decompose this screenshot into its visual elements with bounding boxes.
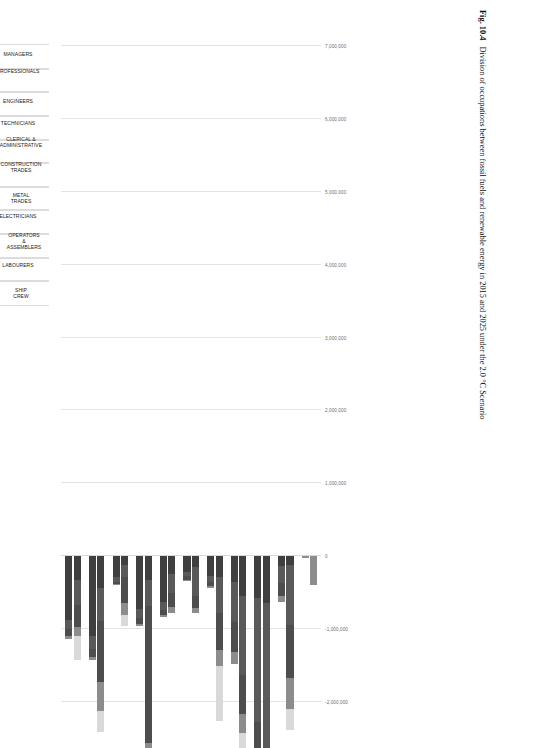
- bar-segment-offshore-wind: [207, 586, 214, 587]
- category-label: PROFESSIONALS: [0, 68, 39, 74]
- bar-segment-pv: [215, 577, 222, 613]
- category-name: CONSTRUCTION TRADES: [15, 163, 27, 187]
- bar-segment-fossil-fuel: [230, 556, 237, 582]
- bar-group: [273, 46, 297, 702]
- bar-segment-onshore-wind: [168, 593, 175, 608]
- figure-caption: Fig. 10.4Division of occupations between…: [472, 0, 492, 710]
- year-label-2025: 2025: [0, 225, 11, 231]
- value-tick-label: 6,000,000: [325, 117, 346, 122]
- value-tick-label: 4,000,000: [325, 263, 346, 268]
- bar-segment-offshore-wind: [88, 657, 95, 660]
- bar-segment-pv: [65, 620, 72, 629]
- year-label-2025: 2025: [0, 178, 11, 184]
- year-label-2025: 2025: [0, 60, 11, 66]
- bar-segment-fossil-fuel: [191, 556, 198, 567]
- value-tick-label: 1,000,000: [325, 481, 346, 486]
- plot-area: [61, 46, 321, 702]
- bar-segment-fossil-fuel: [73, 556, 80, 580]
- bar-segment-pv: [239, 596, 246, 675]
- value-tick-label: 3,000,000: [325, 336, 346, 341]
- bar-segment-fossil-fuel: [144, 556, 151, 580]
- bar-group: [61, 46, 85, 702]
- category-tick-ship-crew: 20152025SHIP CREW: [0, 280, 49, 306]
- bar-segment-pv: [97, 588, 104, 622]
- bar-segment-onshore-wind: [215, 613, 222, 649]
- bar-segment-change-fossil: [121, 615, 128, 627]
- bar-segment-pv: [254, 599, 261, 723]
- category-label: CONSTRUCTION TRADES: [0, 160, 41, 172]
- bar-segment-offshore-wind: [121, 603, 128, 615]
- bar-segment-offshore-wind: [136, 624, 143, 626]
- bar-segment-offshore-wind: [215, 650, 222, 666]
- bar-segment-fossil-fuel: [262, 556, 269, 603]
- caption-text: Division of occupations between fossil f…: [478, 40, 487, 419]
- bar-group: [84, 46, 108, 702]
- bar-segment-offshore-wind: [73, 627, 80, 636]
- category-tick-engineers: 20152025ENGINEERS: [0, 91, 49, 117]
- bar-segment-offshore-wind: [65, 636, 72, 639]
- bar-segment-offshore-wind: [168, 607, 175, 613]
- bar-segment-fossil-fuel: [97, 556, 104, 587]
- bar-segment-fossil-fuel: [65, 556, 72, 620]
- rotated-figure-container: Fossil fuel jobsPV jobsOnshore wind jobs…: [53, 24, 483, 724]
- category-label: MANAGERS: [3, 51, 32, 57]
- value-tick-label: 2,000,000: [325, 408, 346, 413]
- bar-segment-offshore-wind: [277, 596, 284, 602]
- bar-segment-fossil-fuel: [239, 556, 246, 595]
- category-label: METAL TRADES: [9, 193, 33, 205]
- bar-segment-onshore-wind: [121, 577, 128, 603]
- year-label-2025: 2025: [0, 272, 11, 278]
- bar-segment-fossil-fuel: [254, 556, 261, 598]
- bar-segment-fossil-fuel: [88, 556, 95, 636]
- category-name: SHIP CREW: [15, 281, 27, 305]
- bar-segment-onshore-wind: [286, 625, 293, 677]
- category-name: PROFESSIONALS: [15, 69, 21, 93]
- category-tick-labourers: 20152025LABOURERS: [0, 257, 49, 283]
- bar-segment-onshore-wind: [88, 649, 95, 657]
- category-name: MANAGERS: [15, 45, 21, 69]
- bar-segment-pv: [159, 602, 166, 610]
- bar-segment-pv: [286, 565, 293, 626]
- bar-group: [155, 46, 179, 702]
- category-tick-managers: 20152025MANAGERS: [0, 44, 49, 70]
- category-name: ENGINEERS: [15, 92, 21, 116]
- bar-group: [226, 46, 250, 702]
- value-tick-label: -1,000,000: [325, 627, 348, 632]
- bar-segment-change-fossil: [97, 711, 104, 731]
- bar-segment-fossil-fuel: [286, 556, 293, 565]
- bar-segment-change-fossil: [286, 709, 293, 731]
- bar-group: [108, 46, 132, 702]
- bar-group: [179, 46, 203, 702]
- bar-segment-fossil-fuel: [136, 556, 143, 608]
- category-label: LABOURERS: [2, 263, 33, 269]
- bar-segment-offshore-wind: [301, 556, 308, 558]
- figure-page: Fossil fuel jobsPV jobsOnshore wind jobs…: [0, 0, 535, 748]
- bar-segment-offshore-wind: [159, 615, 166, 617]
- bar-segment-offshore-wind: [286, 678, 293, 709]
- category-tick-professionals: 20152025PROFESSIONALS: [0, 68, 49, 94]
- year-label-2025: 2025: [0, 83, 11, 89]
- category-name: ELECTRICIANS: [15, 210, 21, 234]
- year-label-2025: 2025: [0, 154, 11, 160]
- bar-segment-onshore-wind: [230, 622, 237, 653]
- category-tick-metal-trades: 20152025METAL TRADES: [0, 186, 49, 212]
- bar-segment-fossil-fuel: [215, 556, 222, 576]
- category-name: LABOURERS: [15, 258, 21, 282]
- bar-segment-fossil-fuel: [183, 556, 190, 571]
- bar-segment-pv: [121, 565, 128, 577]
- bar-segment-fossil-fuel: [207, 556, 214, 576]
- category-label: TECHNICIANS: [0, 119, 34, 125]
- category-tick-construction-trades: 20152025CONSTRUCTION TRADES: [0, 162, 49, 188]
- year-label-2025: 2025: [0, 107, 11, 113]
- caption-label: Fig. 10.4: [478, 10, 487, 40]
- category-label: SHIP CREW: [9, 287, 33, 299]
- bar-segment-fossil-fuel: [277, 556, 284, 565]
- category-name: METAL TRADES: [15, 187, 27, 211]
- bar-segment-offshore-wind: [239, 714, 246, 732]
- bar-segment-onshore-wind: [97, 621, 104, 682]
- bar-segment-onshore-wind: [191, 596, 198, 608]
- bar-segment-offshore-wind: [112, 585, 119, 586]
- category-label: OPERATORS & ASSEMBLERS: [6, 232, 40, 250]
- bar-segment-fossil-fuel: [159, 556, 166, 602]
- bar-segment-pv: [73, 580, 80, 605]
